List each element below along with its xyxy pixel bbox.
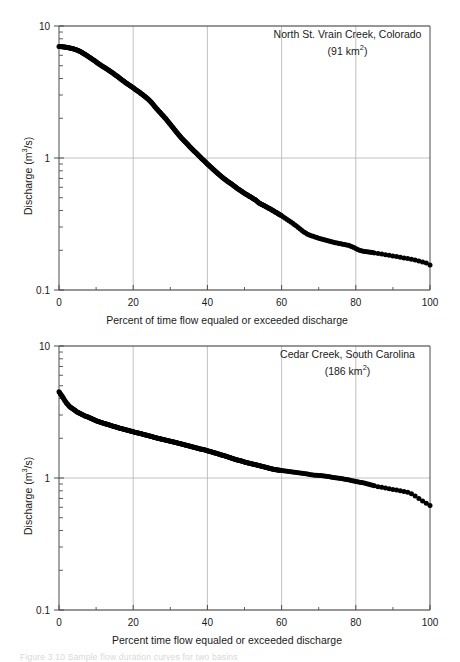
chart-panel-cedar-creek: 0.1110020406080100 Cedar Creek, South Ca… [0,320,460,650]
y-axis-title-bottom: Discharge (m3/s) [20,457,34,535]
chart-annotation-cedar-creek: Cedar Creek, South Carolina (186 km2) [250,348,445,378]
svg-text:80: 80 [350,297,362,308]
annotation-site-name: North St. Vrain Creek, Colorado [250,28,445,41]
svg-text:1: 1 [44,153,50,164]
svg-text:20: 20 [128,617,140,628]
y-axis-exponent: 3 [20,468,29,472]
svg-text:10: 10 [39,21,51,32]
svg-text:60: 60 [276,617,288,628]
svg-text:40: 40 [202,617,214,628]
figure-caption: Figure 3.10 Sample flow duration curves … [20,652,450,662]
svg-text:60: 60 [276,297,288,308]
svg-text:0: 0 [56,297,62,308]
x-axis-title-bottom: Percent time flow equaled or exceeded di… [12,634,442,646]
svg-text:1: 1 [44,473,50,484]
svg-text:40: 40 [202,297,214,308]
annotation-site-name: Cedar Creek, South Carolina [250,348,445,361]
figure-flow-duration-curves: 0.1110020406080100 North St. Vrain Creek… [0,0,460,662]
svg-text:10: 10 [39,341,51,352]
y-axis-exponent: 3 [20,148,29,152]
svg-text:0: 0 [56,617,62,628]
svg-text:0.1: 0.1 [36,605,50,616]
chart-annotation-north-st-vrain: North St. Vrain Creek, Colorado (91 km2) [250,28,445,58]
svg-text:0.1: 0.1 [36,285,50,296]
chart-panel-north-st-vrain: 0.1110020406080100 North St. Vrain Creek… [0,0,460,330]
svg-text:100: 100 [422,617,439,628]
annotation-area: (186 km2) [250,361,445,378]
annotation-area: (91 km2) [250,41,445,58]
svg-text:80: 80 [350,617,362,628]
svg-text:20: 20 [128,297,140,308]
y-axis-title-top: Discharge (m3/s) [20,137,34,215]
svg-text:100: 100 [422,297,439,308]
